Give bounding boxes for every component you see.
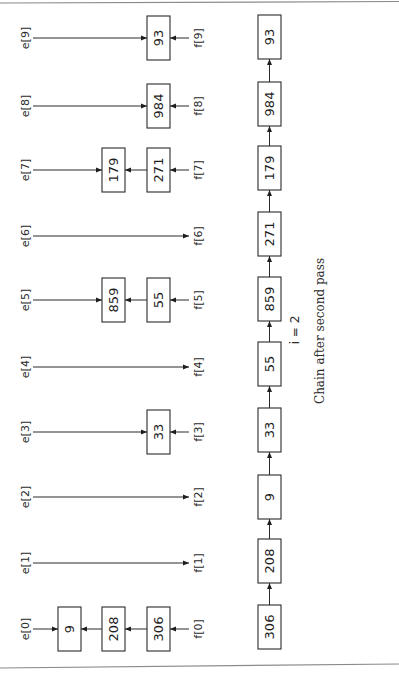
arrowhead-icon [170,430,176,435]
chain-node-value: 984 [262,92,277,117]
tail-pointer-label: f[2] [192,487,205,506]
list-node-value: 306 [151,617,166,642]
arrowhead-icon [267,256,272,262]
arrowhead-icon [267,452,272,458]
bottom-rule [0,664,399,668]
tail-pointer-label: f[7] [192,160,205,179]
arrowhead-icon [125,298,131,303]
arrowhead-icon [170,298,176,303]
list-node-value: 55 [151,292,166,309]
head-pointer-label: e[4] [19,356,32,378]
figure-caption: Chain after second pass [313,258,327,404]
list-node-value: 208 [106,617,121,642]
chain-after-second-pass-figure: e[0]f[0]9208306e[1]f[1]e[2]f[2]e[3]f[3]3… [0,0,399,675]
arrowhead-icon [183,365,189,370]
chain-node-value: 9 [262,493,277,501]
head-pointer-label: e[6] [19,225,32,247]
arrowhead-icon [183,234,189,239]
tail-pointer-label: f[1] [192,553,205,572]
bucket-row: e[3]f[3]33 [19,410,205,454]
pass-label: i = 2 [288,316,302,345]
arrowhead-icon [170,168,176,173]
arrowhead-icon [170,627,176,632]
arrowhead-icon [183,495,189,500]
bucket-row: e[8]f[8]984 [19,84,205,128]
head-pointer-label: e[1] [19,552,32,574]
arrowhead-icon [141,104,147,109]
chain-node-value: 55 [262,356,277,373]
top-rule [0,2,399,4]
tail-pointer-label: f[6] [192,226,205,245]
chain-node-value: 859 [262,287,277,312]
arrowhead-icon [170,36,176,41]
chain-node-value: 33 [262,422,277,439]
arrowhead-icon [125,627,131,632]
chain-node-value: 271 [262,222,277,247]
arrowhead-icon [52,627,58,632]
arrowhead-icon [141,430,147,435]
list-node-value: 93 [151,30,166,47]
arrowhead-icon [125,168,131,173]
arrowhead-icon [267,59,272,65]
head-pointer-label: e[5] [19,289,32,311]
bucket-row: e[6]f[6] [19,225,205,247]
tail-pointer-label: f[8] [192,96,205,115]
arrowhead-icon [96,168,102,173]
list-node-value: 859 [106,288,121,313]
list-node-value: 271 [151,158,166,183]
arrowhead-icon [267,386,272,392]
arrowhead-icon [267,190,272,196]
head-pointer-label: e[2] [19,486,32,508]
arrowhead-icon [81,627,87,632]
list-node-value: 9 [62,625,77,633]
list-node-value: 984 [151,94,166,119]
arrowhead-icon [267,321,272,327]
result-chain: 3062089335585927117998493 [258,15,281,649]
list-node-value: 33 [151,424,166,441]
bucket-row: e[4]f[4] [19,356,205,378]
arrowhead-icon [267,583,272,589]
tail-pointer-label: f[4] [192,357,205,376]
bucket-row: e[1]f[1] [19,552,205,574]
bucket-row: e[5]f[5]85955 [19,278,205,322]
chain-node-value: 306 [262,615,277,640]
head-pointer-label: e[8] [19,95,32,117]
buckets: e[0]f[0]9208306e[1]f[1]e[2]f[2]e[3]f[3]3… [19,16,205,651]
arrowhead-icon [170,104,176,109]
bucket-row: e[2]f[2] [19,486,205,508]
bucket-row: e[7]f[7]179271 [19,148,205,192]
arrowhead-icon [267,126,272,132]
tail-pointer-label: f[0] [192,619,205,638]
chain-node-value: 208 [262,549,277,574]
tail-pointer-label: f[5] [192,290,205,309]
arrowhead-icon [267,519,272,525]
bucket-row: e[9]f[9]93 [19,16,205,60]
tail-pointer-label: f[3] [192,422,205,441]
chain-node-value: 93 [262,29,277,46]
head-pointer-label: e[7] [19,159,32,181]
arrowhead-icon [96,298,102,303]
head-pointer-label: e[0] [19,618,32,640]
chain-node-value: 179 [262,156,277,181]
arrowhead-icon [141,36,147,41]
bucket-row: e[0]f[0]9208306 [19,607,205,651]
head-pointer-label: e[9] [19,27,32,49]
head-pointer-label: e[3] [19,421,32,443]
tail-pointer-label: f[9] [192,28,205,47]
list-node-value: 179 [106,158,121,183]
arrowhead-icon [183,561,189,566]
